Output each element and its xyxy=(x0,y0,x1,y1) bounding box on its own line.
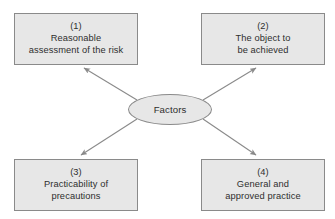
node-box-4: (4) General and approved practice xyxy=(201,159,325,211)
connector-center-to-node-4 xyxy=(203,119,256,155)
node-3-number: (3) xyxy=(70,167,82,179)
node-4-line-2: approved practice xyxy=(225,191,301,203)
center-node-label: Factors xyxy=(154,104,187,115)
node-1-line-2: assessment of the risk xyxy=(29,45,124,57)
node-4-line-1: General and xyxy=(237,179,289,191)
connector-center-to-node-2 xyxy=(203,68,256,100)
node-1-number: (1) xyxy=(70,21,82,33)
node-4-number: (4) xyxy=(257,167,269,179)
node-box-2: (2) The object to be achieved xyxy=(201,13,325,65)
node-2-line-1: The object to xyxy=(235,33,290,45)
node-box-3: (3) Practicability of precautions xyxy=(14,159,138,211)
connector-center-to-node-3 xyxy=(81,119,137,155)
factors-diagram: (1) Reasonable assessment of the risk (2… xyxy=(0,0,335,219)
node-2-line-2: be achieved xyxy=(237,45,288,57)
connector-center-to-node-1 xyxy=(84,68,137,100)
center-node-factors: Factors xyxy=(128,94,212,125)
node-3-line-1: Practicability of xyxy=(44,179,108,191)
node-box-1: (1) Reasonable assessment of the risk xyxy=(14,13,138,65)
node-2-number: (2) xyxy=(257,21,269,33)
node-3-line-2: precautions xyxy=(51,191,100,203)
node-1-line-1: Reasonable xyxy=(51,33,102,45)
